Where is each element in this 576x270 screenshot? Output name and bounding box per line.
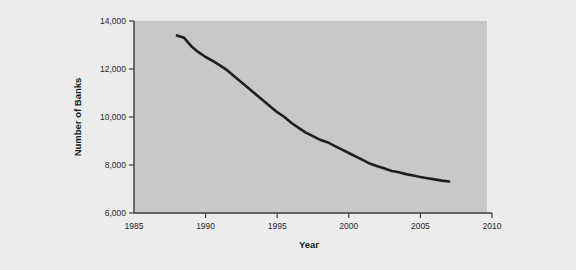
- line-chart: 6,0008,00010,00012,00014,000 19851990199…: [0, 0, 576, 270]
- plot-background: [134, 21, 487, 213]
- x-tick-label: 2000: [339, 221, 358, 231]
- x-tick-label: 1990: [196, 221, 215, 231]
- x-axis-tick-labels: 198519901995200020052010: [125, 221, 502, 231]
- x-tick-label: 1985: [125, 221, 144, 231]
- y-tick-label: 8,000: [105, 160, 127, 170]
- x-tick-label: 2005: [411, 221, 430, 231]
- y-axis-ticks: [129, 21, 134, 213]
- y-axis-tick-labels: 6,0008,00010,00012,00014,000: [100, 16, 126, 218]
- x-tick-label: 1995: [268, 221, 287, 231]
- x-axis-ticks: [206, 213, 492, 218]
- y-tick-label: 6,000: [105, 208, 127, 218]
- y-axis-title: Number of Banks: [72, 78, 83, 157]
- x-tick-label: 2010: [483, 221, 502, 231]
- chart-figure: 6,0008,00010,00012,00014,000 19851990199…: [0, 0, 576, 270]
- y-tick-label: 14,000: [100, 16, 126, 26]
- y-tick-label: 10,000: [100, 112, 126, 122]
- x-axis-title: Year: [299, 239, 319, 250]
- y-tick-label: 12,000: [100, 64, 126, 74]
